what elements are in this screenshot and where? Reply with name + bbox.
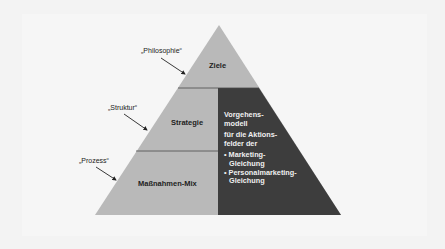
tier-strategie: Strategie	[171, 118, 203, 127]
bullet-personalmarketing-cont: Gleichung	[224, 177, 334, 186]
annotation-struktur: „Struktur“	[108, 104, 137, 111]
arrow-prozess-icon	[96, 167, 116, 180]
pyramid-diagram	[0, 0, 445, 249]
vorgehensmodell-panel: Vorgehens- modell für die Aktions- felde…	[224, 111, 334, 186]
panel-sub-line2: felder der	[224, 140, 334, 149]
arrow-philosophie-icon	[161, 58, 185, 74]
tier-massnahmen-mix: Maßnahmen-Mix	[138, 179, 197, 188]
annotation-prozess: „Prozess“	[79, 157, 109, 164]
panel-title-line2: modell	[224, 120, 334, 129]
annotation-philosophie: „Philosophie“	[141, 47, 182, 54]
tier-ziele: Ziele	[209, 61, 226, 70]
arrow-struktur-icon	[124, 114, 147, 130]
